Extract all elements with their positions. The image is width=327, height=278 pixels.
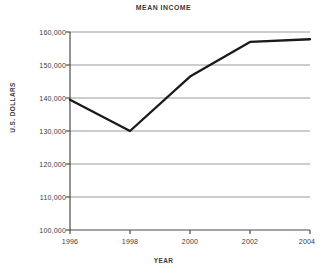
gridlines <box>70 32 310 230</box>
plot-area <box>0 0 327 278</box>
data-series-line <box>70 39 310 131</box>
x-axis-ticks <box>70 230 310 234</box>
chart-container: MEAN INCOME U.S. DOLLARS YEAR 160,000 15… <box>0 0 327 278</box>
